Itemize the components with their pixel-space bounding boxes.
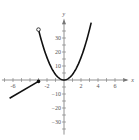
open-endpoint-circle xyxy=(37,28,41,32)
y-tick-label: 30 xyxy=(55,35,61,41)
y-tick-label: −30 xyxy=(52,119,61,125)
piecewise-function-graph: xy -6-2246302010−10−20−30 xyxy=(0,0,139,140)
x-tick-label: 4 xyxy=(97,83,100,89)
y-tick-label: −20 xyxy=(52,105,61,111)
y-tick-label: 20 xyxy=(55,49,61,55)
x-tick-label: -2 xyxy=(45,83,50,89)
x-tick-label: -6 xyxy=(11,83,16,89)
y-axis-arrow-icon xyxy=(62,18,66,24)
x-axis-label: x xyxy=(130,77,134,83)
y-axis-label: y xyxy=(62,11,66,17)
x-tick-label: 2 xyxy=(80,83,83,89)
axes: xy xyxy=(2,11,134,135)
x-axis-arrow-icon xyxy=(124,78,129,82)
x-tick-label: 6 xyxy=(114,83,117,89)
closed-endpoint-dot xyxy=(37,80,41,84)
y-tick-label: −10 xyxy=(52,91,61,97)
y-tick-label: 10 xyxy=(55,63,61,69)
